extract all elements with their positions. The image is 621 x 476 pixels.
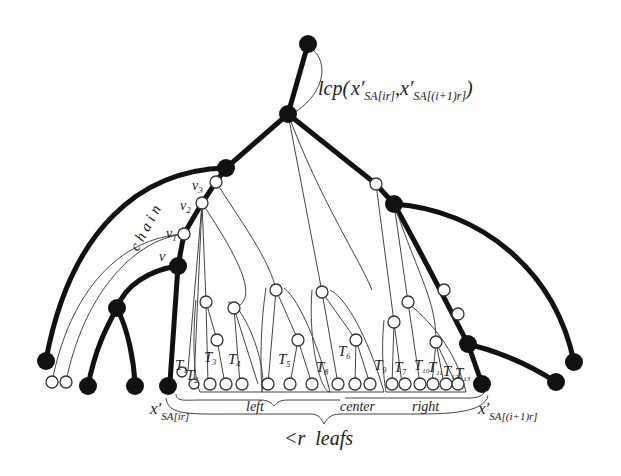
labels: lcp(x′SA[ir],x′SA[(i+1)r]) chain v3 v2 v…: [127, 77, 538, 450]
right-leaf-label: x′SA[(i+1)r]: [477, 399, 538, 423]
subtree-T4-label: T4: [228, 351, 240, 369]
chain-node-v1-label: v1: [166, 226, 177, 243]
braces: [166, 390, 488, 424]
subtree-T7-label: T7: [394, 359, 407, 377]
region-right-label: right: [412, 399, 440, 414]
subtree-T13-label: T13: [455, 365, 471, 383]
leaf-count-label: <r leafs: [284, 427, 353, 450]
chain-node-v3-label: v3: [192, 178, 203, 195]
chain-node-v-label: v: [159, 249, 166, 264]
lcp-label: lcp(x′SA[ir],x′SA[(i+1)r]): [318, 77, 473, 103]
subtree-T8-label: T8: [316, 359, 328, 377]
thick-edges: [46, 44, 574, 386]
subtree-T5-label: T5: [278, 351, 290, 369]
chain-label: chain: [127, 199, 166, 254]
subtree-T9-label: T9: [374, 357, 386, 375]
subtree-T3-label: T3: [204, 349, 216, 367]
region-left-label: left: [246, 399, 265, 414]
suffix-tree-diagram: lcp(x′SA[ir],x′SA[(i+1)r]) chain v3 v2 v…: [0, 0, 621, 476]
region-center-label: center: [340, 399, 376, 414]
sampled-nodes: [37, 35, 583, 395]
left-leaf-label: x′SA[ir]: [149, 399, 189, 422]
chain-node-v2-label: v2: [180, 198, 191, 215]
subtree-T6-label: T6: [338, 343, 350, 361]
subtree-T2-label: T2: [186, 367, 198, 385]
